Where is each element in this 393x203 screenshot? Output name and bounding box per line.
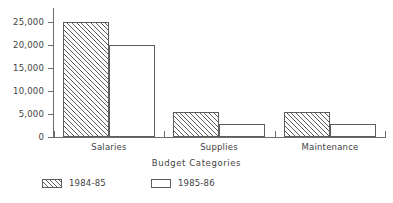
y-axis-tick [48,22,54,23]
y-axis-label: 15,000 [0,64,44,73]
bar-supplies-1984-85 [173,112,219,137]
bar-salaries-1985-86 [109,45,155,137]
y-axis-label: 5,000 [0,110,44,119]
category-label-maintenance: Maintenance [275,142,385,152]
chart-legend: 1984-85 1985-86 [42,178,215,188]
bar-salaries-1984-85 [63,22,109,137]
x-axis-tick [275,131,276,138]
y-axis-line [53,8,54,137]
y-axis-label: 0 [0,133,44,142]
x-axis-tick [54,131,55,138]
bar-maintenance-1985-86 [330,124,376,137]
y-axis-tick [48,114,54,115]
category-label-salaries: Salaries [54,142,164,152]
legend-label-1984-85: 1984-85 [69,178,106,188]
x-axis-title: Budget Categories [0,158,393,168]
y-axis-label: 10,000 [0,87,44,96]
y-axis-tick [48,68,54,69]
bar-maintenance-1984-85 [284,112,330,137]
category-label-supplies: Supplies [164,142,274,152]
x-axis-tick [164,131,165,138]
legend-entry-1984-85: 1984-85 [42,178,106,188]
open-swatch-icon [151,179,171,188]
x-axis-line [53,137,385,138]
bar-chart: 05,00010,00015,00020,00025,000 SalariesS… [0,0,393,203]
y-axis-tick [48,91,54,92]
y-axis-label: 20,000 [0,41,44,50]
legend-label-1985-86: 1985-86 [178,178,215,188]
y-axis-label: 25,000 [0,18,44,27]
x-axis-tick [385,131,386,138]
legend-entry-1985-86: 1985-86 [151,178,215,188]
hatched-swatch-icon [42,179,62,188]
y-axis-tick [48,45,54,46]
bar-supplies-1985-86 [219,124,265,137]
